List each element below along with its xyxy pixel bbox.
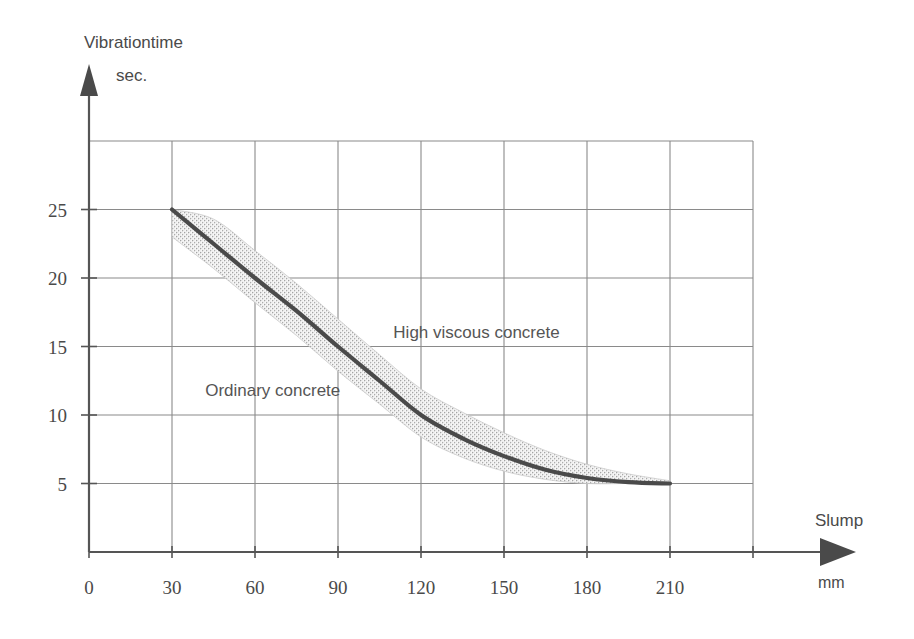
y-tick-label: 5 xyxy=(58,474,68,495)
x-tick-label: 90 xyxy=(329,577,348,598)
x-tick-label: 210 xyxy=(656,577,685,598)
chart-container: 0306090120150180210510152025 Ordinary co… xyxy=(0,0,914,639)
x-tick-label: 0 xyxy=(84,577,94,598)
x-axis-unit-label: mm xyxy=(818,574,845,591)
x-tick-label: 150 xyxy=(490,577,519,598)
y-tick-label: 25 xyxy=(48,200,67,221)
series-annotation-label: High viscous concrete xyxy=(393,323,559,342)
y-tick-label: 10 xyxy=(48,405,67,426)
x-axis-title: Slump xyxy=(815,511,863,530)
vibrationtime-slump-chart: 0306090120150180210510152025 Ordinary co… xyxy=(0,0,914,639)
y-axis-title-line2: sec. xyxy=(116,66,147,85)
series-annotation-label: Ordinary concrete xyxy=(205,381,340,400)
x-tick-label: 60 xyxy=(246,577,265,598)
y-tick-label: 15 xyxy=(48,337,67,358)
y-tick-label: 20 xyxy=(48,268,67,289)
y-axis-title-line1: Vibrationtime xyxy=(84,33,183,52)
x-tick-label: 30 xyxy=(163,577,182,598)
x-tick-label: 120 xyxy=(407,577,436,598)
x-tick-label: 180 xyxy=(573,577,602,598)
chart-background xyxy=(0,0,914,639)
